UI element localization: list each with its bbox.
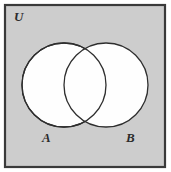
set-a-label: A [41,130,51,145]
set-b-label: B [125,130,135,145]
universal-set-label: U [14,9,24,24]
venn-diagram-figure: U A B [0,0,171,172]
venn-diagram-canvas: U A B [0,0,171,172]
